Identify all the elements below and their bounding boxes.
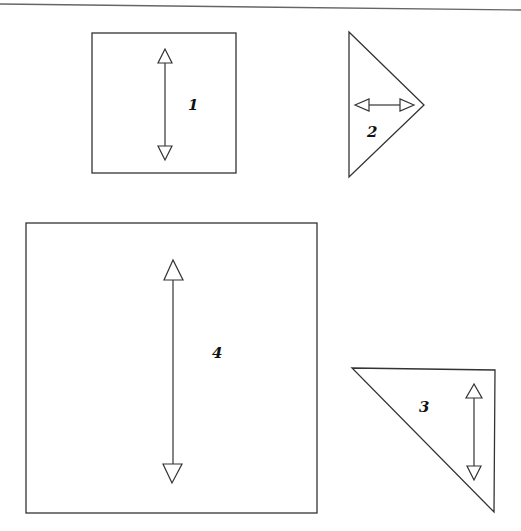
diagram-canvas: 1 2 4 3 [0,0,521,531]
double-arrow-vertical-icon [158,49,172,160]
double-arrow-vertical-icon [466,384,482,480]
shape-4-square: 4 [26,223,317,513]
shape-label-2: 2 [366,123,377,141]
shape-3-triangle: 3 [352,368,495,512]
shape-label-3: 3 [419,398,429,416]
shape-2-triangle: 2 [349,32,424,177]
double-arrow-horizontal-icon [355,99,414,111]
double-arrow-vertical-icon [163,260,183,483]
top-rule [0,4,521,10]
shape-1-square: 1 [92,33,236,173]
shape-label-1: 1 [188,96,198,114]
shape-label-4: 4 [212,344,222,362]
